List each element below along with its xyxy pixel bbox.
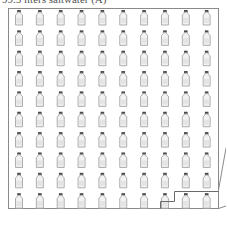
bottle-icon <box>16 10 23 25</box>
bottle-icon <box>182 51 189 66</box>
bottle-icon <box>16 173 23 188</box>
bottle-icon <box>36 91 43 106</box>
bottle-icon <box>57 71 64 86</box>
bottle-icon <box>120 193 127 208</box>
bottle-icon <box>78 112 85 127</box>
bottle-icon <box>161 193 168 208</box>
bottle-icon <box>78 71 85 86</box>
bottle-icon <box>120 112 127 127</box>
bottle-icon <box>182 152 189 167</box>
bottle-icon <box>120 10 127 25</box>
bottle-icon <box>120 51 127 66</box>
bottle-icon <box>78 173 85 188</box>
bottle-icon <box>78 91 85 106</box>
bottle-icon <box>120 91 127 106</box>
bottle-icon <box>99 71 106 86</box>
bottle-icon <box>182 112 189 127</box>
bottle-icon <box>141 173 148 188</box>
bottle-icon <box>161 10 168 25</box>
bottle-icon <box>182 193 189 208</box>
bottle-icon <box>99 10 106 25</box>
bottle-icon <box>161 112 168 127</box>
bottle-icon <box>203 91 210 106</box>
bottle-icon <box>57 51 64 66</box>
bottle-icon <box>120 173 127 188</box>
bottle-icon <box>78 193 85 208</box>
bottle-icon <box>120 152 127 167</box>
bottle-icon <box>36 152 43 167</box>
bottle-icon <box>141 152 148 167</box>
bottle-icon <box>120 132 127 147</box>
bottle-icon <box>36 173 43 188</box>
bottle-icon <box>99 51 106 66</box>
bottle-icon <box>57 193 64 208</box>
bottle-grid-diagram <box>0 0 226 225</box>
bottle-icon <box>182 173 189 188</box>
bottle-icon <box>57 173 64 188</box>
bottle-icon <box>16 112 23 127</box>
bottle-icon <box>141 132 148 147</box>
bottle-icon <box>120 30 127 45</box>
bottle-icon <box>99 173 106 188</box>
bottle-icon <box>203 30 210 45</box>
bottle-icon <box>182 71 189 86</box>
bottle-icon <box>141 51 148 66</box>
bottle-icon <box>16 51 23 66</box>
bottle-icon <box>161 30 168 45</box>
bottle-icon <box>203 132 210 147</box>
bottle-icon <box>78 10 85 25</box>
bottle-icon <box>16 91 23 106</box>
bottle-icon <box>161 132 168 147</box>
bottle-grid <box>16 10 211 208</box>
bottle-icon <box>57 152 64 167</box>
callout-line-upper <box>219 148 227 190</box>
bottle-icon <box>161 51 168 66</box>
bottle-icon <box>36 112 43 127</box>
bottle-icon <box>99 30 106 45</box>
bottle-icon <box>99 193 106 208</box>
bottle-icon <box>182 132 189 147</box>
bottle-icon <box>203 51 210 66</box>
bottle-icon <box>57 112 64 127</box>
bottle-icon <box>203 193 210 208</box>
bottle-icon <box>16 152 23 167</box>
bottle-icon <box>161 173 168 188</box>
bottle-icon <box>99 91 106 106</box>
bottle-icon <box>141 30 148 45</box>
bottle-icon <box>57 10 64 25</box>
bottle-icon <box>161 152 168 167</box>
bottle-icon <box>203 173 210 188</box>
bottle-icon <box>182 30 189 45</box>
bottle-icon <box>36 193 43 208</box>
bottle-icon <box>57 30 64 45</box>
bottle-icon <box>182 10 189 25</box>
bottle-icon <box>36 132 43 147</box>
bottle-icon <box>141 91 148 106</box>
bottle-icon <box>16 132 23 147</box>
bottle-icon <box>16 30 23 45</box>
bottle-icon <box>36 51 43 66</box>
bottle-icon <box>141 193 148 208</box>
bottle-icon <box>16 71 23 86</box>
bottle-icon <box>99 132 106 147</box>
bottle-icon <box>161 91 168 106</box>
bottle-icon <box>203 152 210 167</box>
bottle-icon <box>141 10 148 25</box>
bottle-icon <box>203 10 210 25</box>
bottle-icon <box>141 71 148 86</box>
bottle-icon <box>203 112 210 127</box>
bottle-icon <box>182 91 189 106</box>
bottle-icon <box>36 10 43 25</box>
bottle-icon <box>141 112 148 127</box>
bottle-icon <box>78 30 85 45</box>
bottle-icon <box>120 71 127 86</box>
bottle-icon <box>36 71 43 86</box>
bottle-icon <box>78 51 85 66</box>
bottle-icon <box>161 71 168 86</box>
bottle-icon <box>78 152 85 167</box>
bottle-icon <box>57 132 64 147</box>
bottle-icon <box>203 71 210 86</box>
bottle-icon <box>16 193 23 208</box>
bottle-icon <box>78 132 85 147</box>
bottle-icon <box>99 112 106 127</box>
